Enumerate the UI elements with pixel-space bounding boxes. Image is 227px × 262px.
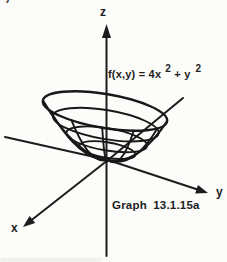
y-axis-label: y — [216, 186, 223, 198]
y-axis-arrowhead-icon — [195, 185, 208, 194]
scanned-figure-page: ) z f(x,y) = 4x2 + y2 y x Graph 13.1.15a — [0, 0, 227, 262]
figure-caption: Graph 13.1.15a — [112, 200, 200, 212]
function-formula-label: f(x,y) = 4x2 + y2 — [108, 69, 201, 80]
paraboloid-wireframe — [40, 84, 170, 163]
formula-middle: + y — [174, 68, 190, 80]
formula-prefix: f(x,y) = 4x — [108, 68, 161, 80]
cropped-corner-mark: ) — [6, 0, 10, 3]
scan-smudge — [0, 258, 102, 262]
formula-exponent: 2 — [165, 63, 171, 74]
z-axis-label: z — [100, 6, 106, 18]
z-axis-arrowhead-icon — [102, 24, 111, 38]
paraboloid-3d-plot — [0, 0, 227, 262]
formula-exponent: 2 — [196, 63, 202, 74]
x-axis-label: x — [11, 222, 18, 234]
